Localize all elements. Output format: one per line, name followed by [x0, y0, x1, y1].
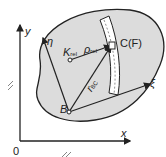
y-axis-label: y [25, 26, 31, 37]
xi-label: ξ [150, 78, 155, 89]
origin-label: 0 [13, 146, 19, 157]
rho-rel-label: ρrel [84, 44, 97, 55]
point-c-label: C(F) [120, 38, 142, 49]
kinematics-diagram: y x 0 η ξ B C(F) Krel ρrel rBC [0, 0, 166, 157]
point-b-label: B [60, 104, 67, 115]
point-b [67, 110, 71, 114]
eta-label: η [47, 36, 53, 47]
point-c-slider [109, 42, 115, 49]
x-axis-label: x [121, 128, 127, 139]
k-rel-label: Krel [63, 47, 77, 58]
diagram-graphics [0, 0, 166, 157]
point-k [68, 58, 72, 62]
rigid-body [37, 9, 164, 121]
